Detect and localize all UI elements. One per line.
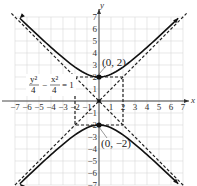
y-tick-label: 7: [93, 12, 98, 22]
vertex-dot: [96, 122, 101, 127]
hyperbola-plot: −7−6−5−4−3−2−11234567−7−6−5−4−3−2−112345…: [0, 0, 197, 186]
eq-operator: −: [42, 80, 47, 90]
y-tick-label: 6: [93, 24, 98, 34]
y-tick-label: −4: [87, 144, 97, 154]
x-tick-label: 4: [145, 102, 150, 112]
y-tick-label: 3: [93, 60, 98, 70]
x-tick-label: −3: [58, 102, 68, 112]
x-tick-label: 1: [109, 102, 114, 112]
y-tick-label: −3: [87, 132, 97, 142]
x-tick-label: 5: [157, 102, 162, 112]
x-tick-label: −7: [10, 102, 20, 112]
x-tick-label: 3: [133, 102, 138, 112]
curve-arrow-icon: [20, 13, 25, 18]
eq-numerator-right: x²: [51, 74, 59, 84]
y-tick-label: −7: [87, 180, 97, 186]
vertex-top-label: (0, 2): [102, 56, 126, 69]
vertex-dot: [96, 74, 101, 79]
equation-label: y² 4 − x² 4 = 1: [26, 74, 76, 96]
x-axis-label: x: [190, 95, 195, 105]
x-tick-label: −6: [22, 102, 32, 112]
y-tick-label: 4: [93, 48, 98, 58]
eq-denominator-right: 4: [52, 85, 57, 95]
x-tick-label: 6: [169, 102, 174, 112]
y-tick-label: 1: [93, 84, 98, 94]
eq-rhs: = 1: [62, 80, 74, 90]
y-tick-label: −1: [87, 108, 97, 118]
y-axis-label: y: [99, 0, 104, 10]
vertex-bottom-label: (0, −2): [101, 137, 131, 150]
y-tick-label: −5: [87, 156, 97, 166]
x-tick-label: 7: [181, 102, 186, 112]
y-tick-label: −6: [87, 168, 97, 178]
x-tick-label: −5: [34, 102, 44, 112]
eq-denominator-left: 4: [31, 85, 36, 95]
y-tick-label: 5: [93, 36, 98, 46]
eq-numerator-left: y²: [30, 74, 38, 84]
x-tick-label: −4: [46, 102, 56, 112]
center-dot: [97, 99, 101, 103]
